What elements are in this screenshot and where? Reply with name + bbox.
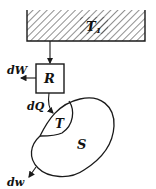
heat-in-label: dQ bbox=[27, 100, 45, 113]
engine-box: R bbox=[36, 64, 64, 93]
system-work-arrow bbox=[29, 167, 36, 177]
work-out-label: dW bbox=[7, 64, 29, 77]
subsystem-label: T bbox=[55, 117, 65, 131]
engine-label: R bbox=[43, 71, 55, 86]
carnot-system-diagram: T1 R dW dQ T S dw bbox=[0, 0, 156, 189]
heat-reservoir: T1 bbox=[27, 10, 145, 41]
system-work-label: dw bbox=[7, 176, 25, 189]
heat-in-arrow bbox=[48, 93, 53, 113]
system-label: S bbox=[77, 137, 86, 152]
